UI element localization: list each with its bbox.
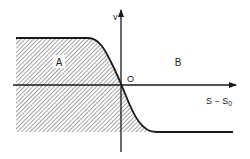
horizontal-axis-label-main: S − S (206, 96, 228, 106)
horizontal-axis-label-subscript: 0 (228, 100, 232, 107)
region-b-label: B (175, 57, 182, 68)
velocity-diagram: A B O v S − S0 (0, 0, 250, 159)
origin-label: O (127, 74, 134, 84)
region-a-label: A (56, 57, 63, 68)
horizontal-axis-label: S − S0 (206, 96, 232, 107)
vertical-axis-label: v (113, 12, 118, 22)
